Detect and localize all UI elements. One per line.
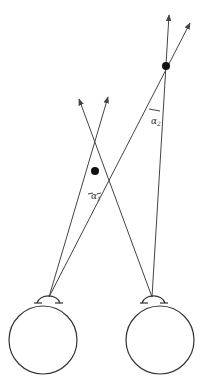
left-eye: [9, 296, 77, 374]
far-point: [162, 62, 170, 70]
alpha1-label: α1: [91, 191, 101, 202]
right-eye: [126, 296, 194, 374]
alpha2-label: α2: [151, 116, 161, 127]
alpha2-angle-marker: [149, 109, 160, 111]
right-eye-near-sightline: [79, 99, 152, 297]
near-point: [91, 167, 99, 175]
right-eye-far-sightline: [152, 15, 169, 297]
convergence-diagram: α1 α2: [0, 0, 210, 383]
